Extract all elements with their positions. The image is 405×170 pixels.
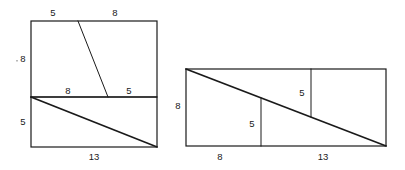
diagram-canvas: 5 8 8 5 8 5 13 8 5 5 8 13 (0, 0, 405, 170)
right-figure-group: 8 5 5 8 13 (175, 69, 386, 162)
left-label-left-upper: 8 (20, 53, 25, 64)
left-label-top-right: 8 (112, 7, 117, 18)
left-label-middle-left: 8 (65, 85, 70, 96)
left-label-bottom: 13 (89, 151, 100, 162)
right-label-left: 8 (175, 100, 180, 111)
right-label-bottom-left: 8 (217, 151, 222, 162)
right-label-inner-upper: 5 (299, 87, 304, 98)
left-upper-rectangle (31, 21, 157, 97)
left-upper-slant-line (78, 21, 108, 97)
right-label-bottom-right: 13 (318, 151, 329, 162)
left-lower-diagonal-line (31, 97, 157, 147)
right-label-inner-lower: 5 (249, 118, 254, 129)
right-main-diagonal-line (186, 69, 386, 146)
left-label-top-left: 5 (50, 7, 55, 18)
scan-speck-artifact (16, 60, 18, 62)
geometric-diagram: 5 8 8 5 8 5 13 8 5 5 8 13 (0, 0, 405, 170)
left-figure-group: 5 8 8 5 8 5 13 (20, 7, 157, 162)
left-label-middle-right: 5 (126, 85, 131, 96)
left-label-left-lower: 5 (20, 116, 25, 127)
